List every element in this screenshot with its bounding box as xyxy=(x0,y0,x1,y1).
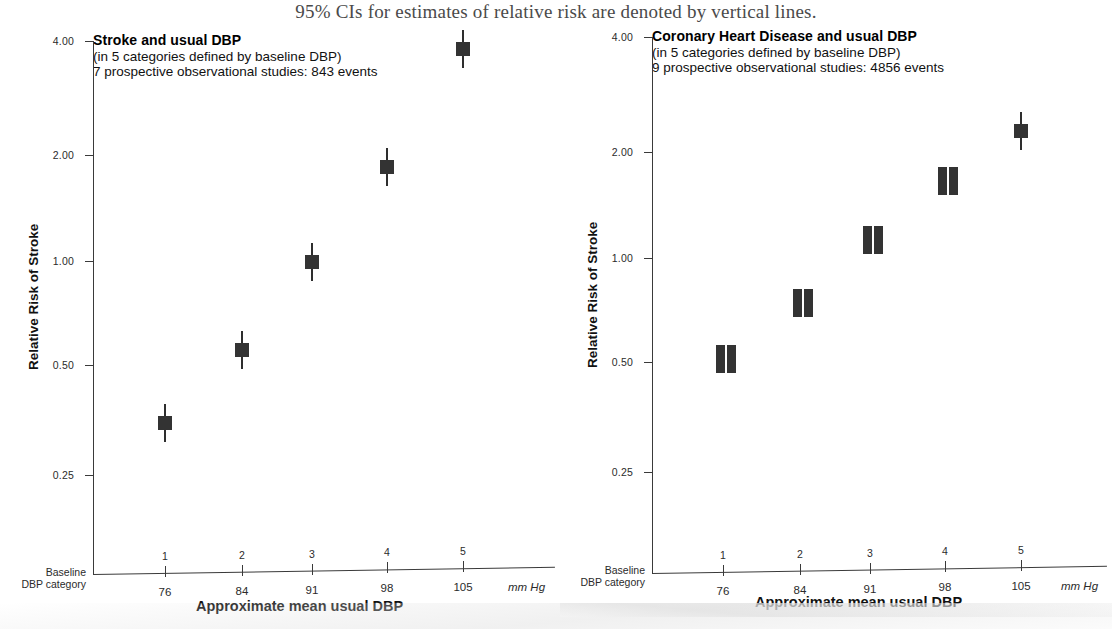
x-category-1: 1 xyxy=(150,550,180,562)
y-axis-line xyxy=(93,41,94,574)
y-tick-label-025: 0.25 xyxy=(593,466,633,478)
x-value-91: 91 xyxy=(295,584,329,596)
data-point-chd-1 xyxy=(716,345,736,373)
x-category-4: 4 xyxy=(372,546,402,558)
y-tick-1 xyxy=(85,261,93,262)
y-tick-2 xyxy=(85,155,93,156)
x-value-98: 98 xyxy=(928,581,962,593)
y-tick-label-2: 2.00 xyxy=(34,149,74,161)
point-marker-left xyxy=(793,289,802,317)
baseline-category-line1: Baseline xyxy=(564,564,645,576)
x-category-3: 3 xyxy=(855,547,885,559)
x-category-5: 5 xyxy=(1006,544,1036,556)
baseline-category-line2: DBP category xyxy=(8,578,86,590)
x-value-84: 84 xyxy=(225,585,259,597)
point-marker xyxy=(305,255,319,269)
point-marker-left xyxy=(716,345,725,373)
x-tick-4 xyxy=(945,561,946,572)
y-axis-line xyxy=(652,37,653,574)
data-point-stroke-4 xyxy=(380,148,394,186)
figure-page: 95% CIs for estimates of relative risk a… xyxy=(0,0,1112,629)
data-point-stroke-1 xyxy=(158,404,172,442)
x-axis-units: mm Hg xyxy=(508,581,545,593)
point-marker-left xyxy=(863,226,872,254)
data-point-stroke-2 xyxy=(235,331,249,369)
baseline-category-line1: Baseline xyxy=(8,566,86,578)
data-point-stroke-5 xyxy=(456,30,470,68)
x-tick-3 xyxy=(312,564,313,575)
scan-artifact-band-right xyxy=(560,603,1112,617)
panel-heading-chd: Coronary Heart Disease and usual DBP (in… xyxy=(652,28,944,75)
panel-subtitle-2: 9 prospective observational studies: 485… xyxy=(652,60,944,75)
x-value-76: 76 xyxy=(706,585,740,597)
point-marker-right xyxy=(949,167,958,195)
data-point-chd-2 xyxy=(793,289,813,317)
x-tick-1 xyxy=(165,566,166,577)
y-axis-title: Relative Risk of Stroke xyxy=(585,222,600,368)
x-category-2: 2 xyxy=(227,549,257,561)
data-point-stroke-3 xyxy=(305,243,319,281)
data-point-chd-4 xyxy=(938,167,958,195)
x-tick-3 xyxy=(870,563,871,574)
point-marker xyxy=(380,160,394,174)
baseline-category-label: Baseline DBP category xyxy=(8,566,86,590)
point-marker-right xyxy=(874,226,883,254)
point-marker-right xyxy=(804,289,813,317)
x-category-3: 3 xyxy=(297,548,327,560)
panel-subtitle-2: 7 prospective observational studies: 843… xyxy=(93,64,377,79)
panel-title: Stroke and usual DBP xyxy=(93,32,377,48)
x-category-2: 2 xyxy=(785,548,815,560)
y-tick-4 xyxy=(644,37,652,38)
point-marker xyxy=(158,416,172,430)
panel-title: Coronary Heart Disease and usual DBP xyxy=(652,28,944,44)
y-tick-025 xyxy=(644,472,652,473)
x-tick-2 xyxy=(800,564,801,575)
point-marker xyxy=(235,343,249,357)
x-category-1: 1 xyxy=(708,549,738,561)
x-axis-line xyxy=(93,567,555,575)
data-point-chd-3 xyxy=(863,226,883,254)
point-marker xyxy=(1014,124,1028,138)
x-tick-4 xyxy=(387,562,388,573)
y-tick-1 xyxy=(644,258,652,259)
x-axis-units: mm Hg xyxy=(1061,580,1098,592)
baseline-category-line2: DBP category xyxy=(564,576,645,588)
y-tick-label-025: 0.25 xyxy=(34,469,74,481)
x-tick-5 xyxy=(463,561,464,572)
point-marker-left xyxy=(938,167,947,195)
panel-heading-stroke: Stroke and usual DBP (in 5 categories de… xyxy=(93,32,377,79)
point-marker xyxy=(456,42,470,56)
y-tick-050 xyxy=(644,362,652,363)
panel-subtitle-1: (in 5 categories defined by baseline DBP… xyxy=(93,49,377,64)
y-axis-title: Relative Risk of Stroke xyxy=(26,224,41,370)
y-tick-2 xyxy=(644,152,652,153)
x-value-98: 98 xyxy=(370,582,404,594)
point-marker-right xyxy=(727,345,736,373)
x-tick-2 xyxy=(242,565,243,576)
y-tick-label-2: 2.00 xyxy=(593,146,633,158)
x-value-105: 105 xyxy=(1004,580,1038,592)
x-category-5: 5 xyxy=(448,545,478,557)
x-tick-5 xyxy=(1021,560,1022,571)
y-tick-label-4: 4.00 xyxy=(593,31,633,43)
baseline-category-label: Baseline DBP category xyxy=(564,564,645,588)
x-tick-1 xyxy=(723,565,724,576)
chart-panel-chd: Coronary Heart Disease and usual DBP (in… xyxy=(556,0,1112,629)
x-axis-line xyxy=(652,566,1107,574)
panel-subtitle-1: (in 5 categories defined by baseline DBP… xyxy=(652,45,944,60)
y-tick-4 xyxy=(85,41,93,42)
x-value-105: 105 xyxy=(446,581,480,593)
y-tick-label-4: 4.00 xyxy=(34,35,74,47)
x-value-76: 76 xyxy=(148,586,182,598)
chart-panel-stroke: Stroke and usual DBP (in 5 categories de… xyxy=(0,0,570,629)
y-tick-025 xyxy=(85,475,93,476)
y-tick-050 xyxy=(85,365,93,366)
x-category-4: 4 xyxy=(930,545,960,557)
data-point-chd-5 xyxy=(1014,112,1028,150)
